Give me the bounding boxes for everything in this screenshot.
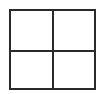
grid-2x2-icon [9, 9, 96, 90]
grid-horizontal-divider [11, 50, 94, 52]
